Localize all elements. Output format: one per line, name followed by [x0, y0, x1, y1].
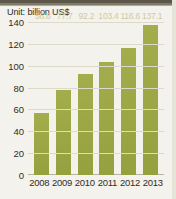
- gridline: [28, 66, 164, 67]
- gridline: [28, 109, 164, 110]
- bar-value-label: 137.1: [142, 11, 162, 21]
- bar-value-label: 116.6: [120, 11, 140, 21]
- bar-value-label: 77.7: [57, 11, 73, 21]
- top-banner-strip-secondary: [0, 3, 176, 6]
- x-axis-tick-label: 2010: [73, 177, 96, 191]
- bar[interactable]: 77.7: [56, 90, 71, 175]
- bar-column[interactable]: 77.7: [56, 22, 71, 175]
- x-axis-tick-label: 2012: [119, 177, 142, 191]
- bar-column[interactable]: 103.4: [99, 22, 114, 175]
- plot-area: 56.677.792.2103.4116.6137.1 020406080100…: [28, 22, 166, 175]
- y-axis-tick-label: 40: [13, 126, 24, 137]
- x-axis-tick-label: 2008: [28, 177, 51, 191]
- y-axis-tick-label: 0: [19, 170, 24, 181]
- y-axis-tick-label: 100: [8, 60, 24, 71]
- bar-column[interactable]: 92.2: [78, 22, 93, 175]
- y-axis-tick-label: 120: [8, 38, 24, 49]
- bar-column[interactable]: 137.1: [143, 22, 158, 175]
- gridline: [28, 22, 164, 23]
- x-tick-row: 200820092010201120122013: [28, 177, 164, 191]
- y-axis-tick-label: 140: [8, 17, 24, 28]
- bar-column[interactable]: 56.6: [34, 22, 49, 175]
- x-axis-tick-label: 2013: [141, 177, 164, 191]
- gridline: [28, 131, 164, 132]
- bar[interactable]: 92.2: [78, 74, 93, 175]
- gridline: [28, 153, 164, 154]
- bar[interactable]: 103.4: [99, 62, 114, 175]
- x-axis-tick-label: 2011: [96, 177, 119, 191]
- y-axis-tick-label: 20: [13, 148, 24, 159]
- bar[interactable]: 56.6: [34, 113, 49, 175]
- right-page-edge: [172, 0, 176, 199]
- bar-value-label: 56.6: [35, 11, 51, 21]
- x-axis-labels: 200820092010201120122013: [28, 177, 166, 191]
- bar-value-label: 103.4: [98, 11, 118, 21]
- gridline: [28, 88, 164, 89]
- bar-value-label: 92.2: [78, 11, 94, 21]
- bar-series: 56.677.792.2103.4116.6137.1: [28, 22, 164, 175]
- gridline: [28, 44, 164, 45]
- x-axis-tick-label: 2009: [51, 177, 74, 191]
- bar-chart-figure: Unit: billion US$ 56.677.792.2103.4116.6…: [0, 0, 176, 199]
- y-axis-tick-label: 80: [13, 82, 24, 93]
- y-axis-tick-label: 60: [13, 104, 24, 115]
- bar-column[interactable]: 116.6: [121, 22, 136, 175]
